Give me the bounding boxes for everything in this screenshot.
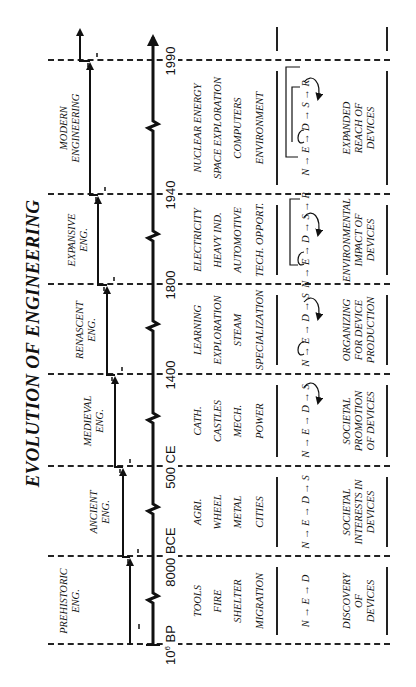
topic: TECH. OPPORT.: [254, 203, 265, 277]
topic: CITIES: [254, 496, 265, 528]
topic: WHEEL: [212, 495, 223, 530]
era-description-expansive: ENVIRONMENTALIMPACT OFDEVICES: [341, 198, 377, 282]
topic: MECH.: [232, 405, 243, 437]
arrow-ancient: [123, 470, 130, 557]
date-1400: 1400: [163, 360, 178, 391]
process-diagram-renascent: N → E → D → S: [300, 293, 311, 367]
era-description-prehistoric: DISCOVERYOFDEVICES: [341, 573, 377, 629]
date-1940: 1940: [163, 180, 178, 211]
main-time-axis: [148, 37, 158, 645]
topic: NUCLEAR ENERGY: [192, 84, 203, 173]
topic: HEAVY IND.: [212, 212, 223, 267]
topic: CATH.: [192, 406, 203, 435]
era-description-ancient: SOCIETALINTERESTS INDEVICES: [341, 479, 377, 544]
process-diagram-modern: N → E → D → S → R: [300, 80, 311, 176]
era-label-prehistoric: PREHISTORICENG.: [58, 568, 82, 634]
topic: SPECIALIZATION: [254, 290, 265, 370]
arrow-renascent: [107, 288, 115, 375]
date-1800: 1800: [163, 270, 178, 301]
topic: POWER: [254, 403, 265, 439]
topic: LEARNING: [192, 305, 203, 355]
arrow-expansive: [98, 198, 107, 285]
process-diagram-medieval: N → E → D → S: [300, 384, 311, 458]
era-label-medieval: MEDIEVALENG.: [82, 396, 106, 447]
era-label-modern: MODERNENGINEERING: [58, 94, 82, 163]
evolution-of-engineering-figure: EVOLUTION OF ENGINEERING: [0, 0, 416, 687]
topic: SPACE EXPLORATION: [212, 77, 223, 179]
era-description-renascent: ORGANIZINGFOR DEVICEPRODUCTION: [341, 297, 377, 364]
process-diagram-expansive: N → E → D → S → R: [300, 192, 311, 288]
era-label-ancient: ANCIENTENG.: [88, 490, 112, 533]
topic: ENVIRONMENT: [254, 92, 265, 164]
date-1990: 1990: [163, 46, 178, 77]
era-description-medieval: SOCIETALPROMOTIONOF DEVICES: [341, 391, 377, 452]
era-label-renascent: RENASCENTENG.: [74, 301, 98, 359]
topic: SHELTER: [232, 579, 243, 623]
topic: ELECTRICITY: [192, 208, 203, 272]
topic: AGRI.: [192, 499, 203, 526]
era-label-expansive: EXPANSIVEENG.: [66, 214, 90, 267]
topic: COMPUTERS: [232, 97, 243, 158]
arrow-medieval: [115, 378, 123, 467]
process-diagram-prehistoric: N → E → D: [300, 575, 311, 628]
date-500-ce: 500 CE: [163, 444, 178, 489]
topic: MIGRATION: [254, 573, 265, 629]
arrow-modern: [90, 64, 98, 195]
era-description-modern: EXPANDEDREACH OFDEVICES: [341, 102, 377, 155]
topic: EXPLORATION: [212, 295, 223, 364]
arrow-future: [80, 30, 90, 61]
date-10e6-bp: 106 BP: [163, 624, 178, 666]
topic: METAL: [232, 496, 243, 528]
topic: AUTOMOTIVE: [232, 207, 243, 273]
topic: FIRE: [212, 590, 223, 613]
topic: TOOLS: [192, 585, 203, 617]
topic: CASTLES: [212, 400, 223, 442]
process-diagram-ancient: N → E → D → S: [300, 475, 311, 549]
date-8000-bce: 8000 BCE: [163, 526, 178, 587]
topic: STEAM: [232, 314, 243, 347]
